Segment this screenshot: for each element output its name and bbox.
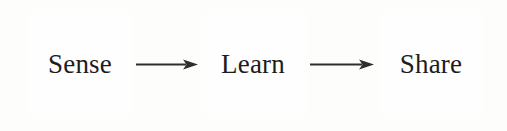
flow-node-label-share: Share (400, 51, 462, 78)
flow-node-sense[interactable]: Sense (27, 9, 133, 119)
flow-node-label-learn: Learn (221, 51, 285, 78)
flow-arrow-sense-to-learn (136, 55, 198, 75)
flow-diagram-canvas: Sense Learn Share (0, 0, 507, 131)
flow-node-share[interactable]: Share (378, 9, 484, 119)
flow-node-label-sense: Sense (48, 51, 112, 78)
flow-node-learn[interactable]: Learn (200, 9, 306, 119)
flow-arrow-learn-to-share (310, 55, 374, 75)
